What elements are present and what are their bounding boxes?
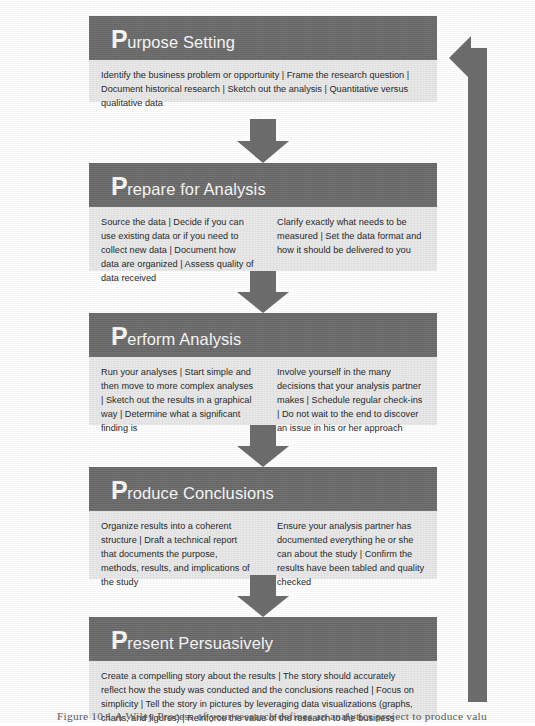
- stage-header-perform-analysis: Perform Analysis: [89, 313, 437, 357]
- drop-cap-letter: P: [111, 324, 127, 349]
- drop-cap-letter: P: [111, 27, 127, 52]
- stage-present-persuasively: Present Persuasively Create a compelling…: [89, 617, 437, 719]
- stage-title-produce-conclusions: roduce Conclusions: [127, 485, 274, 502]
- down-arrow-icon: [237, 271, 289, 313]
- stage-text-column-left: Source the data | Decide if you can use …: [89, 216, 265, 262]
- stage-header-purpose-setting: Purpose Setting: [89, 16, 437, 60]
- stage-text-column: Create a compelling story about the resu…: [89, 670, 437, 710]
- stage-title-perform-analysis: erform Analysis: [127, 331, 241, 348]
- feedback-loop-arrow-icon: [449, 26, 497, 702]
- figure-caption: Figure 10.1 A Wiley Process of your rese…: [57, 709, 487, 724]
- stage-title-purpose-setting: urpose Setting: [127, 34, 235, 51]
- stage-prepare-for-analysis: Prepare for Analysis Source the data | D…: [89, 163, 437, 271]
- down-arrow-icon: [237, 575, 289, 617]
- stage-header-prepare-for-analysis: Prepare for Analysis: [89, 163, 437, 207]
- stage-produce-conclusions: Produce Conclusions Organize results int…: [89, 467, 437, 579]
- down-arrow-icon: [237, 119, 289, 163]
- stage-body-produce-conclusions: Organize results into a coherent structu…: [89, 511, 437, 579]
- stage-body-prepare-for-analysis: Source the data | Decide if you can use …: [89, 207, 437, 271]
- stage-text-column-right: Involve yourself in the many decisions t…: [265, 366, 437, 416]
- stage-header-produce-conclusions: Produce Conclusions: [89, 467, 437, 511]
- stage-header-present-persuasively: Present Persuasively: [89, 617, 437, 661]
- stage-text-column-left: Organize results into a coherent structu…: [89, 520, 265, 570]
- stage-body-purpose-setting: Identify the business problem or opportu…: [89, 60, 437, 102]
- stage-perform-analysis: Perform Analysis Run your analyses | Sta…: [89, 313, 437, 425]
- stage-body-perform-analysis: Run your analyses | Start simple and the…: [89, 357, 437, 425]
- down-arrow-icon: [237, 425, 289, 467]
- stage-text-column-right: Ensure your analysis partner has documen…: [265, 520, 437, 570]
- stage-text-column: Identify the business problem or opportu…: [89, 69, 437, 93]
- drop-cap-letter: P: [111, 174, 127, 199]
- drop-cap-letter: P: [111, 478, 127, 503]
- stage-text-column-left: Run your analyses | Start simple and the…: [89, 366, 265, 416]
- stage-title-prepare-for-analysis: repare for Analysis: [127, 181, 266, 198]
- stage-text-column-right: Clarify exactly what needs to be measure…: [265, 216, 437, 262]
- drop-cap-letter: P: [111, 628, 127, 653]
- stage-purpose-setting: Purpose Setting Identify the business pr…: [89, 16, 437, 102]
- stage-title-present-persuasively: resent Persuasively: [127, 635, 273, 652]
